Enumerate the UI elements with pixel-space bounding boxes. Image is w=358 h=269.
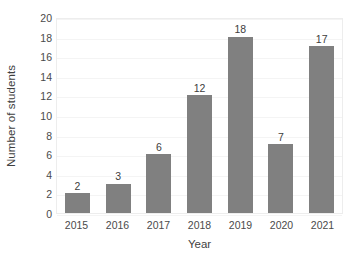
x-axis-tick-label: 2021 (302, 218, 343, 236)
y-axis-tick-label: 18 (24, 32, 52, 43)
bar[interactable]: 3 (106, 184, 131, 213)
y-axis-tick-label: 10 (24, 111, 52, 122)
y-axis-tick-label: 14 (24, 72, 52, 83)
y-axis-tick-label: 20 (24, 13, 52, 24)
x-axis-tick-label: 2019 (220, 218, 261, 236)
bar-value-label: 18 (234, 24, 246, 35)
bar[interactable]: 7 (268, 144, 293, 213)
y-axis-tick-labels: 20181614121086420 (24, 18, 52, 214)
bar-slot: 6 (138, 19, 179, 213)
x-axis-tick-label: 2020 (261, 218, 302, 236)
x-axis-tick-label: 2017 (138, 218, 179, 236)
y-axis-tick-label: 12 (24, 91, 52, 102)
y-axis-tick-label: 4 (24, 170, 52, 181)
bar[interactable]: 2 (65, 193, 90, 213)
x-axis-title: Year (56, 238, 343, 250)
bar-value-label: 2 (74, 181, 80, 192)
y-axis-tick-label: 8 (24, 130, 52, 141)
y-axis-tick-label: 16 (24, 52, 52, 63)
bar-value-label: 17 (316, 34, 328, 45)
bar-slot: 3 (98, 19, 139, 213)
bar-slot: 2 (57, 19, 98, 213)
bar-value-label: 6 (156, 142, 162, 153)
x-axis-tick-label: 2016 (97, 218, 138, 236)
bar[interactable]: 18 (228, 37, 253, 213)
y-axis-title: Number of students (0, 0, 22, 232)
bar[interactable]: 17 (309, 46, 334, 213)
bar-slot: 12 (179, 19, 220, 213)
plot-area: 2361218717 (56, 18, 343, 214)
bar-slot: 7 (261, 19, 302, 213)
y-axis-title-label: Number of students (5, 65, 17, 167)
x-axis-tick-label: 2018 (179, 218, 220, 236)
bar-chart: Number of students 20181614121086420 236… (0, 0, 358, 269)
x-axis-tick-label: 2015 (56, 218, 97, 236)
bar-value-label: 7 (278, 132, 284, 143)
bars-container: 2361218717 (57, 19, 342, 213)
y-axis-tick-label: 6 (24, 150, 52, 161)
y-axis-tick-label: 0 (24, 209, 52, 220)
bar-slot: 17 (301, 19, 342, 213)
x-axis-tick-labels: 2015201620172018201920202021 (56, 218, 343, 236)
bar[interactable]: 12 (187, 95, 212, 213)
bar-slot: 18 (220, 19, 261, 213)
bar-value-label: 12 (194, 83, 206, 94)
y-axis-tick-label: 2 (24, 189, 52, 200)
bar-value-label: 3 (115, 171, 121, 182)
gridline (57, 215, 342, 216)
bar[interactable]: 6 (146, 154, 171, 213)
